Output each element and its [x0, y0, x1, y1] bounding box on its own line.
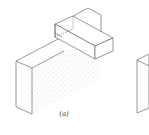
figure-caption: (a)	[56, 110, 72, 118]
wall-end-face	[16, 61, 32, 114]
beam-wall-diagram	[0, 0, 149, 135]
partial-figure-b	[137, 54, 149, 113]
